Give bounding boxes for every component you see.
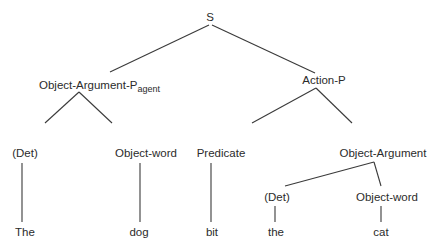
node-s: S <box>206 11 214 23</box>
node-object-argument-p-agent: Object-Argument-Pagent <box>39 79 160 94</box>
leaf-bit: bit <box>206 226 219 238</box>
node-object-word-1: Object-word <box>115 147 177 159</box>
edge-oap-objword <box>79 92 112 123</box>
leaf-the: The <box>15 226 35 238</box>
node-det-1: (Det) <box>12 147 38 159</box>
leaf-cat: cat <box>373 226 389 238</box>
tree-nodes: S Object-Argument-Pagent Action-P (Det) … <box>12 11 427 238</box>
edge-s-actionp <box>212 25 315 73</box>
leaf-dog: dog <box>129 226 148 238</box>
syntax-tree-diagram: S Object-Argument-Pagent Action-P (Det) … <box>0 0 431 246</box>
edge-objarg-det <box>285 162 374 186</box>
node-oap-label: Object-Argument-P <box>39 79 138 91</box>
edge-objarg-objword <box>374 162 381 186</box>
leaf-the-lower: the <box>268 226 284 238</box>
node-object-argument: Object-Argument <box>340 147 428 159</box>
node-object-word-2: Object-word <box>356 191 418 203</box>
node-det-2: (Det) <box>264 191 290 203</box>
node-predicate: Predicate <box>197 147 246 159</box>
edge-actionp-predicate <box>252 88 316 123</box>
edge-actionp-objarg <box>316 88 352 123</box>
node-action-p: Action-P <box>302 74 346 86</box>
edge-s-oap <box>110 25 209 72</box>
node-oap-subscript: agent <box>137 84 160 94</box>
edge-oap-det <box>45 92 79 123</box>
tree-edges <box>22 25 381 222</box>
